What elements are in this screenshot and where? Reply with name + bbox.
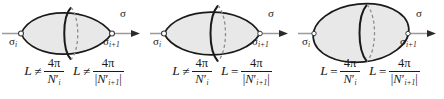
formula-left-fraction: 4π N′i xyxy=(44,57,64,85)
formula-left-fraction: 4π N′i xyxy=(192,57,212,85)
formula-right-numerator: 4π xyxy=(248,57,265,71)
formula-right-relation: ≠ xyxy=(83,65,90,78)
formula-left-numerator: 4π xyxy=(342,57,359,71)
left-vertex-marker xyxy=(19,31,24,36)
formula-right-denominator: |N′i+1| xyxy=(241,72,272,86)
formula-right-lhs: L xyxy=(369,64,377,78)
formula-right-numerator: 4π xyxy=(100,57,117,71)
left-vertex-label: σi xyxy=(9,36,17,47)
formula-right-fraction: 4π |N′i+1| xyxy=(241,57,272,85)
formula-left-relation: = xyxy=(330,65,337,78)
formula-right-relation: = xyxy=(379,65,386,78)
formula-right-relation: = xyxy=(231,65,238,78)
formula-left-lhs: L xyxy=(24,64,32,78)
sigma-axis-arrowhead xyxy=(131,30,140,37)
panel-2-formula-row: L ≠ 4π N′i L = 4π |N′i+1| xyxy=(148,57,296,99)
formula-right: L ≠ 4π |N′i+1| xyxy=(72,57,125,85)
formula-right-numerator: 4π xyxy=(396,57,413,71)
right-vertex-label: σi+1 xyxy=(252,36,269,47)
formula-right-fraction: 4π |N′i+1| xyxy=(93,57,124,85)
formula-left-numerator: 4π xyxy=(46,57,63,71)
sigma-axis-label: σ xyxy=(416,8,422,19)
formula-right-denominator: |N′i+1| xyxy=(389,72,420,86)
panel-2: σ σi σi+1 L ≠ 4π N′i L = 4π |N′i+1| xyxy=(148,0,296,99)
panel-1: σ σi σi+1 L ≠ 4π N′i L ≠ 4π |N′i+1| xyxy=(0,0,148,99)
formula-left: L = 4π N′i xyxy=(319,57,361,85)
formula-right: L = 4π |N′i+1| xyxy=(220,57,273,85)
formula-left-lhs: L xyxy=(320,64,328,78)
formula-left: L ≠ 4π N′i xyxy=(171,57,213,85)
sigma-axis-arrowhead xyxy=(279,30,288,37)
right-vertex-label: σi+1 xyxy=(400,36,417,47)
figure-container: σ σi σi+1 L ≠ 4π N′i L ≠ 4π |N′i+1| xyxy=(0,0,444,99)
formula-left-relation: ≠ xyxy=(34,65,41,78)
formula-left: L ≠ 4π N′i xyxy=(23,57,65,85)
left-vertex-marker xyxy=(312,31,316,35)
formula-right-lhs: L xyxy=(73,64,81,78)
formula-right: L = 4π |N′i+1| xyxy=(368,57,421,85)
formula-left-denominator: N′i xyxy=(341,72,358,86)
formula-left-lhs: L xyxy=(172,64,180,78)
left-vertex-label: σi xyxy=(302,36,310,47)
formula-right-denominator: |N′i+1| xyxy=(93,72,124,86)
panel-3-formula-row: L = 4π N′i L = 4π |N′i+1| xyxy=(296,57,444,99)
panel-1-formula-row: L ≠ 4π N′i L ≠ 4π |N′i+1| xyxy=(0,57,148,99)
sigma-axis-label: σ xyxy=(120,8,126,19)
left-vertex-marker xyxy=(162,31,167,36)
formula-right-lhs: L xyxy=(221,64,229,78)
formula-left-denominator: N′i xyxy=(45,72,62,86)
formula-left-fraction: 4π N′i xyxy=(340,57,360,85)
sigma-axis-arrowhead xyxy=(427,30,436,37)
panel-3: σ σi σi+1 L = 4π N′i L = 4π |N′i+1| xyxy=(296,0,444,99)
right-vertex-label: σi+1 xyxy=(103,36,120,47)
formula-left-denominator: N′i xyxy=(193,72,210,86)
formula-left-relation: ≠ xyxy=(182,65,189,78)
left-vertex-label: σi xyxy=(153,36,161,47)
formula-right-fraction: 4π |N′i+1| xyxy=(389,57,420,85)
sigma-axis-label: σ xyxy=(268,8,274,19)
formula-left-numerator: 4π xyxy=(194,57,211,71)
